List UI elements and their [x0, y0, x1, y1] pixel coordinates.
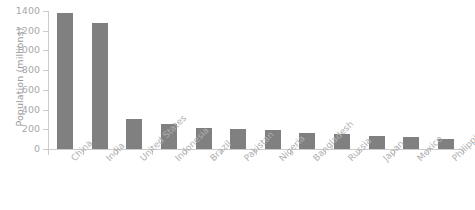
y-axis-tick	[43, 129, 48, 130]
y-axis-tick-label: 1200	[0, 26, 40, 36]
bar	[126, 119, 142, 149]
y-axis-tick-label-text: 200	[0, 124, 40, 134]
x-axis-category-label: Philippines	[450, 156, 457, 163]
y-axis-tick	[43, 50, 48, 51]
y-axis-tick-label-text: 1400	[0, 6, 40, 16]
y-axis-tick-label-text: 0	[0, 144, 40, 154]
y-axis-tick-label: 800	[0, 65, 40, 75]
x-axis-category-label: Mexico	[415, 156, 422, 163]
y-axis-tick	[43, 110, 48, 111]
x-axis-category-label: Brazil	[208, 156, 215, 163]
x-axis-category-label: Indonesia	[173, 156, 180, 163]
y-axis-tick	[43, 70, 48, 71]
y-axis-tick-label-text: 400	[0, 105, 40, 115]
y-axis-tick-label: 400	[0, 105, 40, 115]
bar-chart: Population (millions) 020040060080010001…	[0, 0, 475, 210]
x-axis-category-label: Pakistan	[242, 156, 249, 163]
x-axis-category-label: Bangladesh	[311, 156, 318, 163]
x-axis-category-label: China	[69, 156, 76, 163]
y-axis-tick-label: 0	[0, 144, 40, 154]
y-axis-tick-label-text: 600	[0, 85, 40, 95]
y-axis-tick	[43, 31, 48, 32]
x-axis-tick	[48, 150, 49, 155]
x-axis-category-label: India	[104, 156, 111, 163]
y-axis-tick-label-text: 1200	[0, 26, 40, 36]
y-axis-line	[48, 11, 49, 150]
bar	[92, 23, 108, 149]
x-axis-category-label: Nigeria	[277, 156, 284, 163]
bar	[57, 13, 73, 149]
y-axis-tick-label-text: 800	[0, 65, 40, 75]
bar	[230, 129, 246, 149]
bar	[403, 137, 419, 149]
y-axis-tick	[43, 11, 48, 12]
x-axis-category-label: Russia	[346, 156, 353, 163]
x-axis-category-label: Japan	[381, 156, 388, 163]
x-axis-category-label: United States	[138, 156, 145, 163]
y-axis-tick-label: 600	[0, 85, 40, 95]
y-axis-tick	[43, 90, 48, 91]
y-axis-tick-label: 200	[0, 124, 40, 134]
y-axis-tick-label-text: 1000	[0, 45, 40, 55]
y-axis-tick-label: 1000	[0, 45, 40, 55]
y-axis-tick-label: 1400	[0, 6, 40, 16]
